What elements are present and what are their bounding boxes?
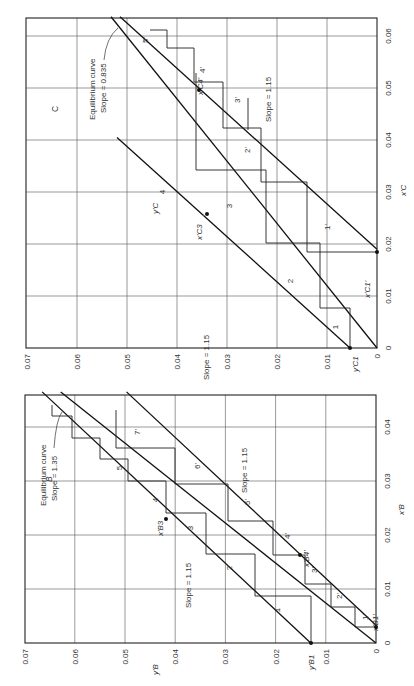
panel-c-points	[197, 88, 379, 350]
panel-b-stage-label: 5	[115, 465, 124, 470]
panel-b-equilibrium-leader	[54, 412, 62, 448]
panel-c-x-tick-label: 0	[384, 345, 393, 350]
panel-c-ticks: 00.010.020.030.040.050.060.0700.010.020.…	[23, 28, 393, 370]
panel-b-point-xb1: x'B1'	[371, 614, 380, 632]
mccabe-thiele-figure: 00.010.020.030.040.050.060.0700.010.020.…	[0, 0, 414, 686]
panel-b-point-yb1-marker	[309, 641, 313, 645]
panel-b: 00.010.020.030.040.050.060.0700.010.020.…	[21, 392, 406, 676]
panel-b-y-tick-label: 0.06	[71, 648, 80, 664]
panel-c-stage-label: 5'	[141, 37, 150, 43]
panel-b-x-tick-label: 0.01	[383, 581, 392, 597]
panel-b-series-line	[42, 392, 311, 643]
panel-c-series-line	[117, 137, 204, 215]
panel-c-y-tick-label: 0.03	[223, 353, 232, 369]
panel-c-label: C	[50, 106, 60, 112]
panel-b-x-tick-label: 0.04	[383, 419, 392, 435]
panel-b-equilibrium-slope: Slope = 1.35	[50, 455, 59, 501]
panel-b-y-tick-label: 0	[372, 648, 381, 653]
panel-c-y-tick-label: 0.01	[323, 353, 332, 369]
panel-b-stage-steps	[52, 405, 376, 643]
panel-c: 00.010.020.030.040.050.060.0700.010.020.…	[23, 17, 408, 380]
panel-c-point-xc4-marker	[197, 88, 201, 92]
panel-b-stage-label: 2'	[335, 593, 344, 599]
panel-b-stage-label: 5'	[243, 499, 252, 505]
panel-c-stage-label: 3	[225, 203, 234, 208]
panel-c-point-yc1-marker	[348, 346, 352, 350]
panel-c-point-yc1: y'C1	[351, 356, 360, 373]
panel-c-x-tick-label: 0.02	[384, 236, 393, 252]
panel-c-point-xc4: x'C4'	[196, 77, 205, 96]
panel-b-equilibrium-label: Equilibrium curve	[39, 444, 48, 506]
panel-b-text: B Equilibrium curve Slope = 1.35 Slope =…	[39, 412, 406, 676]
panel-b-stage-label: 6'	[193, 463, 202, 469]
panel-c-x-tick-label: 0.01	[384, 288, 393, 304]
panel-b-axis-x-label: x'B	[397, 503, 406, 516]
panel-c-point-xc1-marker	[375, 250, 379, 254]
panel-c-equilibrium-leader	[104, 28, 118, 60]
panel-c-series-line	[111, 17, 377, 348]
panel-b-point-xb1-marker	[374, 625, 378, 629]
panel-c-stage-label: 4'	[198, 67, 207, 73]
panel-b-stage-label: 1	[273, 607, 282, 612]
panel-c-lines	[111, 17, 377, 348]
panel-b-point-xb3: x'B3	[156, 520, 165, 537]
panel-b-frame	[25, 395, 376, 643]
panel-b-y-tick-label: 0.05	[121, 648, 130, 664]
panel-b-series-line	[61, 392, 376, 643]
panel-c-y-tick-label: 0.06	[73, 353, 82, 369]
panel-c-stage-label: 2'	[243, 147, 252, 153]
panel-c-stage-label: 2	[286, 278, 295, 283]
panel-c-stage-label: 4	[158, 189, 167, 194]
panel-c-y-tick-label: 0.05	[123, 353, 132, 369]
panel-c-y-tick-label: 0	[373, 353, 382, 358]
panel-b-stage-label: 3'	[310, 567, 319, 573]
panel-b-stage-label: 3	[186, 525, 195, 530]
panel-c-equilibrium-slope: Slope = 0.835	[99, 63, 108, 113]
panel-c-y-tick-label: 0.02	[273, 353, 282, 369]
panel-b-stage-label: 1'	[361, 614, 370, 620]
panel-c-x-tick-label: 0.05	[384, 80, 393, 96]
panel-b-axis-y-label: y'B	[151, 663, 160, 676]
panel-b-stage-label: 4'	[283, 533, 292, 539]
panel-b-y-tick-label: 0.04	[171, 648, 180, 664]
panel-c-slope-lower: Slope = 1.15	[202, 334, 211, 380]
panel-c-y-tick-label: 0.07	[23, 353, 32, 369]
panel-b-slope-upper: Slope = 1.15	[240, 447, 249, 493]
panel-c-point-xc3: x'C3	[195, 224, 204, 241]
panel-c-point-xc1: x'C1'	[363, 280, 372, 299]
panel-b-point-xb4-marker	[298, 553, 302, 557]
panel-b-stage-label: 2	[225, 565, 234, 570]
panel-b-y-tick-label: 0.07	[21, 648, 30, 664]
panel-b-stage-label: 7'	[133, 429, 142, 435]
panel-c-stage-label: 1	[331, 324, 340, 329]
panel-c-stage-label: 1'	[323, 224, 332, 230]
panel-c-slope-upper: Slope = 1.15	[264, 76, 273, 122]
panel-b-grid	[25, 395, 376, 643]
panel-b-point-xb4: x'B4'	[302, 550, 311, 568]
panel-b-stage-label: 4	[151, 497, 160, 502]
panel-c-equilibrium-label: Equilibrium curve	[88, 58, 97, 120]
panel-b-x-tick-label: 0.03	[383, 473, 392, 489]
panel-b-y-tick-label: 0.02	[272, 648, 281, 664]
panel-c-x-tick-label: 0.03	[384, 184, 393, 200]
panel-b-y-tick-label: 0.03	[221, 648, 230, 664]
panel-c-stage-labels: 12341'2'3'4'5'	[141, 37, 340, 330]
panel-c-x-tick-label: 0.06	[384, 28, 393, 44]
panel-b-point-xb3-marker	[164, 517, 168, 521]
panel-b-point-yb1: y'B1	[307, 655, 316, 671]
panel-c-stage-label: 3'	[233, 97, 242, 103]
panel-c-point-xc3-marker	[205, 212, 209, 216]
panel-c-x-tick-label: 0.04	[384, 132, 393, 148]
panel-b-x-tick-label: 0	[383, 640, 392, 645]
panel-c-y-tick-label: 0.04	[173, 353, 182, 369]
panel-b-y-tick-label: 0.01	[322, 648, 331, 664]
panel-c-axis-x-label: x'C	[399, 184, 408, 197]
panel-b-x-tick-label: 0.02	[383, 527, 392, 543]
figure-canvas: 00.010.020.030.040.050.060.0700.010.020.…	[0, 0, 414, 686]
panel-b-slope-lower: Slope = 1.15	[184, 562, 193, 608]
panel-c-axis-y-label: y'C	[151, 202, 160, 215]
